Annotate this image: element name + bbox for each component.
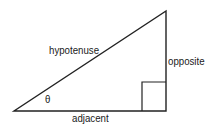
opposite-label: opposite	[168, 55, 205, 67]
adjacent-label: adjacent	[72, 112, 109, 124]
right-triangle	[14, 11, 166, 111]
angle-theta-label: θ	[45, 93, 50, 105]
right-angle-marker	[142, 82, 166, 111]
hypotenuse-label: hypotenuse	[49, 44, 99, 56]
